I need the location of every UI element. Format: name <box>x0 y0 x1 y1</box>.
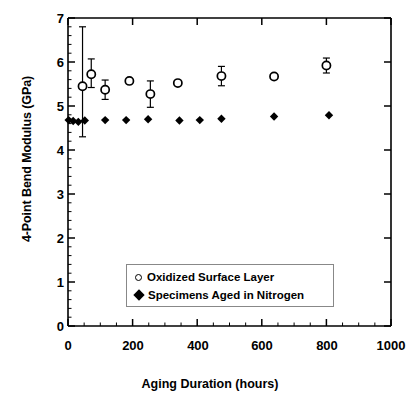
data-point-filled-diamond <box>325 111 333 119</box>
legend-item-oxidized: Oxidized Surface Layer <box>135 268 274 286</box>
data-point-filled-diamond <box>81 116 89 124</box>
plot-area <box>0 0 420 407</box>
data-point-open-circle <box>322 61 330 69</box>
series-oxidized <box>78 27 330 137</box>
data-point-filled-diamond <box>196 116 204 124</box>
data-point-filled-diamond <box>144 115 152 123</box>
data-point-filled-diamond <box>122 116 130 124</box>
open-circle-icon <box>135 274 142 281</box>
filled-diamond-icon <box>133 289 144 300</box>
data-point-open-circle <box>270 72 278 80</box>
chart-legend: Oxidized Surface Layer Specimens Aged in… <box>126 264 334 307</box>
data-point-open-circle <box>125 77 133 85</box>
data-point-filled-diamond <box>74 118 82 126</box>
series-nitrogen <box>64 111 333 126</box>
legend-item-nitrogen: Specimens Aged in Nitrogen <box>135 286 304 304</box>
data-point-filled-diamond <box>101 116 109 124</box>
data-point-open-circle <box>87 70 95 78</box>
legend-label-nitrogen: Specimens Aged in Nitrogen <box>148 289 304 301</box>
chart-container: 4-Point Bend Modulus (GPa) 7 6 5 4 3 2 1… <box>0 0 420 407</box>
data-series-layer <box>64 27 333 137</box>
legend-label-oxidized: Oxidized Surface Layer <box>147 271 274 283</box>
data-point-open-circle <box>101 86 109 94</box>
data-point-open-circle <box>78 82 86 90</box>
data-point-open-circle <box>217 72 225 80</box>
data-point-filled-diamond <box>217 115 225 123</box>
data-point-filled-diamond <box>175 116 183 124</box>
x-axis-title: Aging Duration (hours) <box>0 377 420 391</box>
data-point-open-circle <box>146 90 154 98</box>
data-point-filled-diamond <box>270 112 278 120</box>
data-point-open-circle <box>174 79 182 87</box>
